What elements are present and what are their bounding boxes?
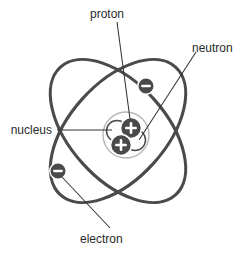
atom-diagram: proton neutron nucleus electron — [0, 0, 247, 255]
label-neutron: neutron — [192, 41, 233, 55]
label-proton: proton — [90, 7, 124, 21]
neutron-leader-line — [139, 52, 196, 140]
label-electron: electron — [80, 232, 123, 246]
electron-particle-1 — [138, 78, 154, 94]
proton-particle-2 — [111, 135, 132, 156]
electron-particle-2 — [50, 163, 66, 179]
label-nucleus: nucleus — [11, 123, 52, 137]
atom-illustration: proton neutron nucleus electron — [0, 0, 247, 255]
electron-leader-line — [62, 177, 110, 228]
